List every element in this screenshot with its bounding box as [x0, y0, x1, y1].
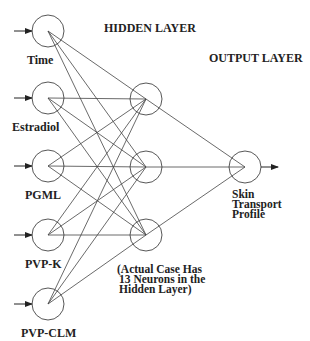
input-label-pvp-k: PVP-K [25, 257, 62, 271]
output-label: Skin Transport Profile [232, 188, 282, 220]
hidden-layer-title: HIDDEN LAYER [104, 21, 196, 35]
svg-text:Hidden Layer): Hidden Layer) [119, 283, 192, 296]
input-label-pvp-clm: PVP-CLM [21, 326, 76, 340]
input-label-estradiol: Estradiol [12, 120, 60, 134]
neural-network-diagram: HIDDEN LAYER OUTPUT LAYER Time Estradiol… [0, 0, 310, 341]
hidden-output-connections [146, 99, 245, 235]
output-layer-title: OUTPUT LAYER [209, 51, 303, 65]
hidden-layer-note: (Actual Case Has 13 Neurons in the Hidde… [117, 263, 205, 296]
input-label-pgml: PGML [25, 188, 61, 202]
svg-text:Profile: Profile [232, 208, 265, 220]
input-label-time: Time [27, 53, 54, 67]
